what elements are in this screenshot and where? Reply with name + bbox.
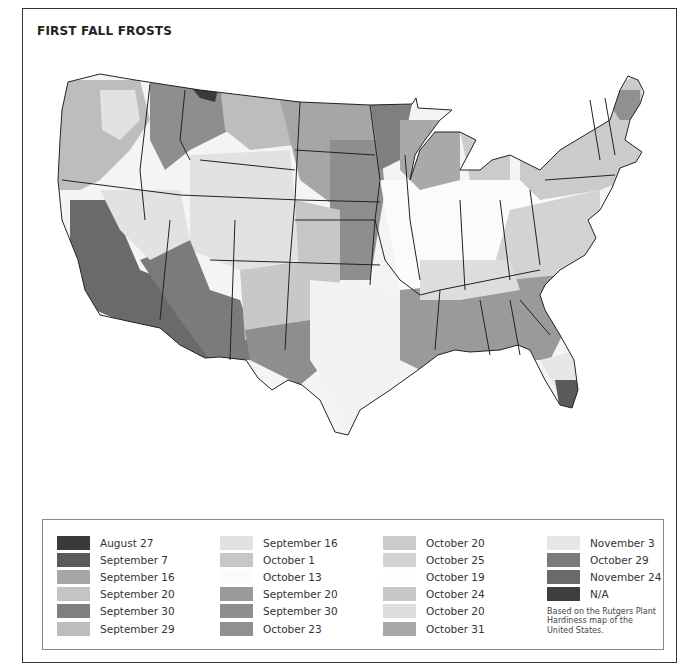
legend-item: N/A	[547, 586, 661, 603]
legend-swatch	[57, 553, 90, 567]
legend-swatch	[383, 570, 416, 584]
us-frost-map	[40, 60, 680, 450]
legend-swatch	[383, 622, 416, 636]
legend-swatch	[57, 570, 90, 584]
legend-swatch	[547, 570, 580, 584]
legend-swatch	[57, 622, 90, 636]
legend-item: August 27	[57, 534, 175, 551]
legend-item: September 16	[57, 568, 175, 585]
legend-item: October 19	[383, 568, 485, 585]
legend-swatch	[220, 587, 253, 601]
legend-column-4: November 3 October 29 November 24 N/A Ba…	[547, 534, 661, 635]
legend-item: September 7	[57, 551, 175, 568]
legend-swatch	[383, 553, 416, 567]
legend-item: November 3	[547, 534, 661, 551]
legend-column-1: August 27 September 7 September 16 Septe…	[57, 534, 175, 637]
legend-item: October 31	[383, 620, 485, 637]
legend-item: October 20	[383, 603, 485, 620]
legend-swatch	[220, 622, 253, 636]
legend-item: November 24	[547, 568, 661, 585]
legend-swatch	[547, 587, 580, 601]
legend-item: September 29	[57, 620, 175, 637]
legend-swatch	[57, 604, 90, 618]
legend-item: September 30	[220, 603, 338, 620]
legend-item: October 29	[547, 551, 661, 568]
legend-item: October 24	[383, 586, 485, 603]
legend-swatch	[383, 604, 416, 618]
legend-item: October 23	[220, 620, 338, 637]
legend-swatch	[547, 536, 580, 550]
legend-item: October 13	[220, 568, 338, 585]
legend-column-2: September 16 October 1 October 13 Septem…	[220, 534, 338, 637]
legend-swatch	[220, 553, 253, 567]
legend-item: September 30	[57, 603, 175, 620]
legend-swatch	[220, 604, 253, 618]
source-note: Based on the Rutgers Plant Hardiness map…	[547, 607, 657, 636]
legend-swatch	[547, 553, 580, 567]
map-legend: August 27 September 7 September 16 Septe…	[42, 519, 664, 650]
map-title: FIRST FALL FROSTS	[37, 24, 172, 38]
legend-column-3: October 20 October 25 October 19 October…	[383, 534, 485, 637]
legend-item: September 20	[220, 586, 338, 603]
legend-item: October 25	[383, 551, 485, 568]
legend-swatch	[383, 536, 416, 550]
legend-swatch	[220, 536, 253, 550]
legend-swatch	[383, 587, 416, 601]
legend-item: September 16	[220, 534, 338, 551]
legend-swatch	[57, 587, 90, 601]
legend-swatch	[57, 536, 90, 550]
legend-item: September 20	[57, 586, 175, 603]
legend-item: October 20	[383, 534, 485, 551]
legend-item: October 1	[220, 551, 338, 568]
legend-swatch	[220, 570, 253, 584]
